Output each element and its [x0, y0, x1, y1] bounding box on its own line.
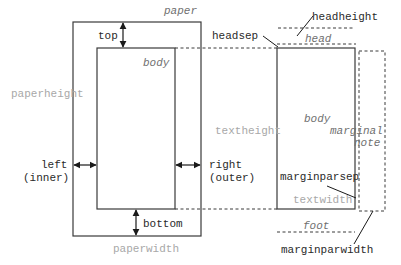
- head-label: head: [305, 33, 332, 45]
- body-label-right: body: [304, 113, 331, 125]
- right-label: right: [209, 159, 242, 171]
- note-label: note: [354, 137, 380, 149]
- headheight-label: headheight: [312, 11, 378, 23]
- paperwidth-label: paperwidth: [113, 243, 179, 255]
- marginparsep-label: marginparsep: [280, 171, 359, 183]
- paper-rect: [73, 22, 201, 236]
- marginparwidth-pointer: [354, 211, 373, 244]
- foot-label: foot: [303, 220, 329, 232]
- body-rect-left: [97, 48, 175, 209]
- bottom-label: bottom: [143, 218, 183, 230]
- left-label: left: [41, 159, 67, 171]
- headsep-label: headsep: [212, 30, 258, 42]
- headsep-pointer: [263, 36, 278, 47]
- marginparwidth-label: marginparwidth: [281, 244, 373, 256]
- paper-label: paper: [163, 5, 197, 17]
- textwidth-label: textwidth: [293, 194, 352, 206]
- body-label-left: body: [143, 57, 170, 69]
- outer-label: (outer): [209, 172, 255, 184]
- textheight-label: textheight: [215, 125, 281, 137]
- top-label: top: [98, 30, 118, 42]
- page-layout-diagram: paper top body paperheight left (inner) …: [0, 0, 401, 265]
- inner-label: (inner): [23, 172, 69, 184]
- paperheight-label: paperheight: [11, 88, 84, 100]
- marginal-label: marginal: [330, 125, 383, 137]
